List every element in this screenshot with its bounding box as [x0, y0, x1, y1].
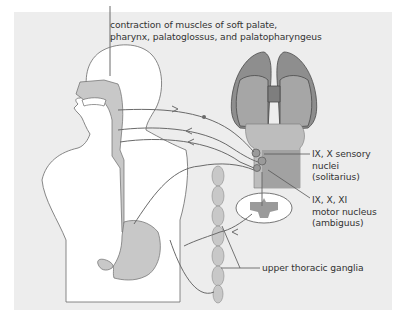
label-line: nuclei: [312, 160, 371, 172]
label-line: motor nucleus: [312, 206, 377, 218]
lungs: [231, 52, 316, 130]
label-line: pharynx, palatoglossus, and palatopharyn…: [110, 31, 322, 43]
spinal-cord-section: [236, 193, 292, 223]
label-motor-nucleus: IX, X, XI motor nucleus (ambiguus): [312, 194, 377, 229]
label-line: contraction of muscles of soft palate,: [110, 19, 322, 31]
label-sensory-nuclei: IX, X sensory nuclei (solitarius): [312, 148, 371, 183]
nerve-ending-icon: [202, 115, 206, 119]
label-line: (ambiguus): [312, 217, 377, 229]
label-line: (solitarius): [312, 171, 371, 183]
label-thoracic-ganglia: upper thoracic ganglia: [262, 262, 364, 274]
label-muscle-contraction: contraction of muscles of soft palate, p…: [110, 19, 322, 42]
label-line: IX, X, XI: [312, 194, 377, 206]
label-line: IX, X sensory: [312, 148, 371, 160]
